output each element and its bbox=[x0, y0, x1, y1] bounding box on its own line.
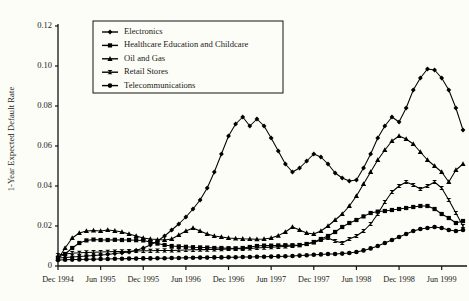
data-point-marker bbox=[354, 250, 359, 255]
data-point-marker bbox=[70, 246, 74, 250]
data-point-marker bbox=[148, 256, 153, 261]
data-point-marker bbox=[162, 243, 166, 247]
data-point-marker bbox=[347, 221, 351, 225]
data-point-marker bbox=[454, 229, 459, 234]
data-point-marker bbox=[390, 208, 394, 212]
data-point-marker bbox=[383, 209, 387, 213]
data-point-marker bbox=[120, 257, 125, 262]
y-tick-label: 0 bbox=[20, 260, 52, 270]
data-point-marker bbox=[248, 255, 253, 260]
legend-label[interactable]: Electronics bbox=[124, 26, 163, 36]
data-point-marker bbox=[283, 229, 288, 234]
data-point-marker bbox=[134, 256, 139, 261]
data-point-marker bbox=[290, 224, 295, 229]
data-point-marker bbox=[369, 211, 373, 215]
data-point-marker bbox=[411, 229, 416, 234]
chart-container: 1-Year Expected Default Rate 00.020.040.… bbox=[0, 0, 469, 301]
data-point-marker bbox=[70, 235, 75, 240]
data-point-marker bbox=[99, 238, 103, 242]
data-point-marker bbox=[368, 169, 373, 174]
data-point-marker bbox=[283, 254, 288, 259]
data-point-marker bbox=[276, 148, 281, 153]
data-point-marker bbox=[269, 254, 274, 259]
data-point-marker bbox=[404, 105, 409, 110]
data-point-marker bbox=[120, 238, 124, 242]
data-point-marker bbox=[361, 248, 366, 253]
series-telecommunications bbox=[56, 225, 466, 263]
data-point-marker bbox=[219, 151, 224, 156]
data-point-marker bbox=[113, 238, 117, 242]
legend-label[interactable]: Telecommunications bbox=[124, 80, 195, 90]
data-point-marker bbox=[276, 254, 281, 259]
data-point-marker bbox=[226, 255, 231, 260]
data-point-marker bbox=[446, 198, 451, 202]
legend-label[interactable]: Healthcare Education and Childcare bbox=[124, 39, 248, 49]
data-point-marker bbox=[91, 238, 95, 242]
legend-sample-marker bbox=[108, 43, 112, 47]
legend-sample-marker bbox=[108, 83, 113, 88]
data-point-marker bbox=[177, 244, 181, 248]
data-point-marker bbox=[347, 178, 352, 183]
data-point-marker bbox=[176, 256, 181, 261]
data-point-marker bbox=[446, 228, 451, 233]
data-point-marker bbox=[297, 253, 302, 258]
data-point-marker bbox=[318, 228, 323, 233]
data-point-marker bbox=[191, 255, 196, 260]
data-point-marker bbox=[382, 200, 387, 204]
data-point-marker bbox=[454, 221, 458, 225]
legend-label[interactable]: Retail Stores bbox=[124, 66, 168, 76]
data-point-marker bbox=[212, 169, 217, 174]
y-axis-title: 1-Year Expected Default Rate bbox=[6, 59, 16, 219]
data-point-marker bbox=[319, 252, 324, 257]
data-point-marker bbox=[184, 255, 189, 260]
data-point-marker bbox=[418, 227, 423, 232]
data-point-marker bbox=[447, 216, 451, 220]
data-point-marker bbox=[255, 254, 260, 259]
data-point-marker bbox=[290, 254, 295, 259]
data-point-marker bbox=[340, 225, 344, 229]
data-point-marker bbox=[347, 251, 352, 256]
data-point-marker bbox=[77, 241, 81, 245]
series-line bbox=[58, 136, 463, 259]
data-point-marker bbox=[105, 257, 110, 262]
data-point-marker bbox=[389, 138, 394, 143]
data-point-marker bbox=[397, 235, 402, 240]
data-point-marker bbox=[425, 226, 430, 231]
data-point-marker bbox=[383, 241, 388, 246]
data-point-marker bbox=[169, 256, 174, 261]
data-point-marker bbox=[404, 206, 408, 210]
data-point-marker bbox=[198, 255, 203, 260]
series-oil-and-gas bbox=[55, 133, 465, 261]
data-point-marker bbox=[219, 255, 224, 260]
data-point-marker bbox=[162, 256, 167, 261]
data-point-marker bbox=[276, 233, 281, 238]
legend-label[interactable]: Oil and Gas bbox=[124, 53, 165, 63]
series-line bbox=[58, 182, 463, 255]
data-point-marker bbox=[440, 212, 444, 216]
data-point-marker bbox=[333, 252, 338, 257]
data-point-marker bbox=[340, 251, 345, 256]
y-tick-label: 0.06 bbox=[20, 140, 52, 150]
data-point-marker bbox=[141, 256, 146, 261]
data-point-marker bbox=[155, 256, 160, 261]
data-point-marker bbox=[84, 257, 89, 262]
data-point-marker bbox=[91, 257, 96, 262]
data-point-marker bbox=[411, 205, 415, 209]
data-point-marker bbox=[170, 244, 174, 248]
data-point-marker bbox=[70, 257, 75, 262]
data-point-marker bbox=[326, 252, 331, 257]
data-point-marker bbox=[461, 228, 466, 233]
data-point-marker bbox=[333, 230, 337, 234]
data-point-marker bbox=[418, 204, 422, 208]
data-point-marker bbox=[262, 254, 267, 259]
y-tick-label: 0.02 bbox=[20, 220, 52, 230]
data-point-marker bbox=[63, 258, 68, 263]
data-point-marker bbox=[453, 211, 458, 215]
data-point-marker bbox=[134, 238, 138, 242]
data-point-marker bbox=[390, 238, 395, 243]
data-point-marker bbox=[460, 161, 465, 166]
data-point-marker bbox=[375, 244, 380, 249]
data-point-marker bbox=[397, 207, 401, 211]
y-tick-label: 0.04 bbox=[20, 180, 52, 190]
data-point-marker bbox=[453, 105, 458, 110]
